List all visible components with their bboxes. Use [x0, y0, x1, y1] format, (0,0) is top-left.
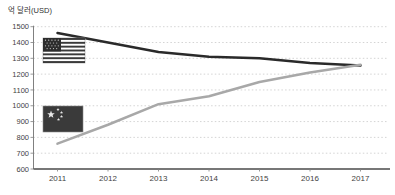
x-tick-labels: 2011201220132014201520162017	[49, 174, 370, 183]
china-flag-icon	[43, 106, 83, 132]
x-tick-label: 2016	[301, 174, 319, 183]
y-tick-label: 1000	[12, 101, 29, 110]
y-tick-label: 1400	[12, 38, 29, 47]
gridlines	[34, 27, 389, 153]
data-series	[58, 33, 361, 144]
y-tick-label: 600	[16, 165, 29, 174]
y-tick-label: 1100	[13, 86, 29, 95]
y-tick-label: 700	[16, 149, 29, 158]
y-tick-label: 1300	[12, 54, 29, 63]
line-chart: 억 달러(USD) 150014001300120011001000900800…	[0, 0, 395, 195]
us-flag-icon	[43, 38, 85, 63]
x-tick-label: 2014	[200, 174, 218, 183]
chart-canvas: 억 달러(USD) 150014001300120011001000900800…	[0, 0, 395, 195]
y-tick-label: 1200	[12, 70, 29, 79]
line-united-states	[58, 33, 361, 65]
x-tick-label: 2013	[150, 174, 168, 183]
x-tick-label: 2011	[49, 174, 67, 183]
x-tick-label: 2012	[99, 174, 117, 183]
y-tick-label: 800	[16, 133, 29, 142]
y-tick-label: 1500	[12, 22, 29, 31]
y-tick-labels: 150014001300120011001000900800700600	[12, 22, 29, 173]
y-tick-label: 900	[16, 117, 29, 126]
x-tick-label: 2015	[251, 174, 269, 183]
china-flag-field	[43, 106, 83, 132]
x-tick-label: 2017	[352, 174, 370, 183]
line-china	[58, 65, 361, 144]
y-axis-title: 억 달러(USD)	[8, 6, 52, 15]
